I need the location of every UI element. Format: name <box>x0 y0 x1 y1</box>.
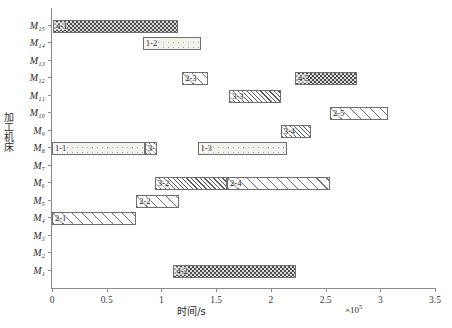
task-bar-label: 2-1 <box>53 214 66 223</box>
x-tick-0.5 <box>107 288 108 292</box>
x-tick-3 <box>380 288 381 292</box>
task-bar[interactable]: 2-1 <box>52 212 136 225</box>
x-axis-exponent: ×105 <box>345 303 362 315</box>
y-tick-label-M13: M₁₃ <box>30 54 45 65</box>
y-tick-M6 <box>48 182 52 183</box>
x-axis-exponent-base: ×10 <box>345 305 359 315</box>
task-bar[interactable]: 4-3 <box>295 72 357 85</box>
y-tick-label-M6: M₆ <box>33 177 45 188</box>
task-bar[interactable]: 4-1 <box>53 20 178 33</box>
y-tick-label-M5: M₅ <box>33 194 45 205</box>
task-bar-label: 4-3 <box>296 74 309 83</box>
y-tick-M3 <box>48 235 52 236</box>
x-tick-0 <box>52 288 53 292</box>
x-tick-label-3.5: 3.5 <box>429 295 441 305</box>
task-bar[interactable]: 3-3 <box>229 90 280 103</box>
x-axis-exponent-power: 5 <box>359 303 362 310</box>
x-axis-title: 时间/s <box>0 303 383 318</box>
x-tick-1 <box>161 288 162 292</box>
task-bar[interactable]: 2-5 <box>330 107 388 120</box>
x-tick-2.5 <box>326 288 327 292</box>
y-tick-label-M8: M₈ <box>33 142 45 153</box>
task-bar[interactable]: 3-4 <box>281 125 312 138</box>
task-bar[interactable]: 1-3 <box>198 142 288 155</box>
task-bar-label: 3-4 <box>282 127 295 136</box>
task-bar-label: 2-3 <box>183 74 196 83</box>
y-tick-label-M9: M₉ <box>33 124 45 135</box>
y-tick-label-M11: M₁₁ <box>30 89 45 100</box>
y-tick-M2 <box>48 252 52 253</box>
task-bar[interactable]: 2-2 <box>136 195 179 208</box>
task-bar[interactable]: 4-2 <box>173 265 296 278</box>
plot-area: M₁₅M₁₄M₁₃M₁₂M₁₁M₁₀M₉M₈M₇M₆M₅M₄M₃M₂M₁ 00.… <box>52 8 435 288</box>
y-tick-label-M15: M₁₅ <box>30 19 45 30</box>
x-axis-line <box>51 288 435 289</box>
x-tick-3.5 <box>435 288 436 292</box>
task-bar[interactable]: 3-1 <box>145 142 157 155</box>
y-tick-label-M1: M₁ <box>33 264 45 275</box>
task-bar[interactable]: 2-3 <box>182 72 208 85</box>
x-tick-1.5 <box>216 288 217 292</box>
y-tick-M11 <box>48 95 52 96</box>
task-bar[interactable]: 1-1 <box>52 142 145 155</box>
y-tick-M9 <box>48 130 52 131</box>
y-tick-label-M4: M₄ <box>33 212 45 223</box>
task-bar[interactable]: 2-4 <box>227 177 330 190</box>
y-tick-label-M10: M₁₀ <box>30 107 45 118</box>
y-tick-M14 <box>48 42 52 43</box>
task-bar[interactable]: 1-2 <box>143 37 201 50</box>
y-tick-M10 <box>48 112 52 113</box>
y-tick-M13 <box>48 60 52 61</box>
task-bar-label: 2-2 <box>137 197 150 206</box>
y-tick-M7 <box>48 165 52 166</box>
task-bar-label: 4-1 <box>54 22 67 31</box>
task-bar-label: 3-2 <box>156 179 169 188</box>
task-bar-label: 3-1 <box>146 144 157 153</box>
y-tick-M12 <box>48 77 52 78</box>
task-bar-label: 2-4 <box>228 179 241 188</box>
y-tick-label-M14: M₁₄ <box>30 37 45 48</box>
y-tick-label-M7: M₇ <box>33 159 45 170</box>
y-tick-label-M2: M₂ <box>33 247 45 258</box>
y-tick-label-M3: M₃ <box>33 229 45 240</box>
task-bar-label: 1-2 <box>144 39 157 48</box>
task-bar[interactable]: 3-2 <box>155 177 227 190</box>
gantt-chart: 加工机床 M₁₅M₁₄M₁₃M₁₂M₁₁M₁₀M₉M₈M₇M₆M₅M₄M₃M₂M… <box>0 0 452 328</box>
task-bar-label: 4-2 <box>174 267 187 276</box>
y-axis-title: 加工机床 <box>2 112 13 152</box>
y-tick-M15 <box>48 25 52 26</box>
y-tick-M1 <box>48 270 52 271</box>
x-tick-2 <box>271 288 272 292</box>
y-tick-label-M12: M₁₂ <box>30 72 45 83</box>
y-tick-M5 <box>48 200 52 201</box>
task-bar-label: 3-3 <box>230 92 243 101</box>
task-bar-label: 1-1 <box>53 144 66 153</box>
task-bar-label: 2-5 <box>331 109 344 118</box>
task-bar-label: 1-3 <box>199 144 212 153</box>
